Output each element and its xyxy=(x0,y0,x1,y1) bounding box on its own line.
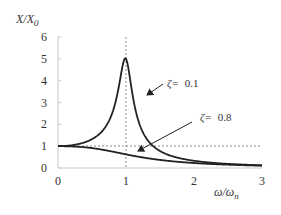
y-tick-label: 6 xyxy=(41,30,47,44)
frequency-response-chart: 0123456 0123 ζ= 0.1 ζ= 0.8 X/X0 ω/ωn xyxy=(0,0,281,215)
y-tick-labels: 0123456 xyxy=(41,30,47,175)
annotation-label-zeta-0.1: ζ= 0.1 xyxy=(167,77,198,90)
curve-zeta-0.1 xyxy=(58,58,262,165)
y-tick-label: 1 xyxy=(41,139,47,153)
x-axis-label: ω/ωn xyxy=(214,185,239,201)
annotation-label-zeta-0.8: ζ= 0.8 xyxy=(200,111,232,124)
x-tick-label: 2 xyxy=(191,174,197,188)
curve-zeta-0.8 xyxy=(58,146,262,165)
annotation-arrow-zeta-0.1 xyxy=(147,84,163,95)
y-tick-label: 0 xyxy=(41,161,47,175)
x-tick-label: 1 xyxy=(123,174,129,188)
x-tick-label: 0 xyxy=(55,174,61,188)
y-tick-label: 5 xyxy=(41,52,47,66)
y-axis-label: X/X0 xyxy=(15,12,39,28)
y-tick-label: 2 xyxy=(41,117,47,131)
x-tick-label: 3 xyxy=(259,174,265,188)
y-tick-label: 3 xyxy=(41,96,47,110)
y-tick-label: 4 xyxy=(41,74,47,88)
